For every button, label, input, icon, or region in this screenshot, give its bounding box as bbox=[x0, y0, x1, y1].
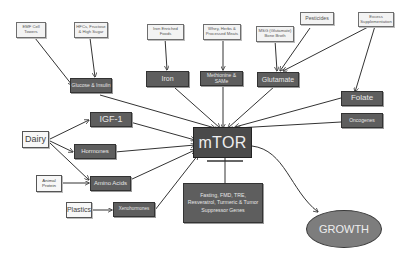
node-label: Methionine & SAMe bbox=[201, 73, 242, 84]
igf-1-node: IGF-1 bbox=[90, 112, 132, 127]
iron-enriched-foods-node: Iron Enriched Foods bbox=[147, 24, 184, 40]
node-label: IGF-1 bbox=[99, 115, 122, 125]
xenohormones-node: Xenohormones bbox=[113, 202, 155, 217]
oncogenes-node: Oncogenes bbox=[341, 113, 383, 128]
inhibitors-node: Fasting, FMD, TRE, Resveratrol, Turmeric… bbox=[183, 183, 263, 223]
node-label: MSG (Glutamate) Bone Broth bbox=[257, 29, 293, 38]
node-label: GROWTH bbox=[319, 223, 369, 235]
growth-node: GROWTH bbox=[306, 210, 382, 248]
msg-bone-broth-node: MSG (Glutamate) Bone Broth bbox=[256, 26, 294, 42]
node-label: Pesticides bbox=[305, 16, 329, 22]
mtor-node: mTOR bbox=[193, 127, 252, 158]
glutamate-node: Glutamate bbox=[257, 72, 299, 87]
processed-meats-node: Whey, Herbs & Processed Meats bbox=[203, 24, 241, 40]
mtor-pathway-diagram: EMF Cell Towers HFCs, Fructose & High Su… bbox=[0, 0, 413, 262]
hfcs-sugar-node: HFCs, Fructose & High Sugar bbox=[74, 22, 108, 38]
node-label: Animal Protein bbox=[37, 179, 61, 189]
dairy-node: Dairy bbox=[22, 131, 49, 148]
node-label: Plastics bbox=[67, 206, 91, 214]
pesticides-node: Pesticides bbox=[300, 12, 334, 25]
animal-protein-node: Animal Protein bbox=[36, 175, 62, 192]
node-label: HFCs, Fructose & High Sugar bbox=[75, 25, 107, 34]
node-label: Excess Supplementation bbox=[359, 15, 393, 24]
excess-supplementation-node: Excess Supplementation bbox=[358, 12, 394, 27]
hormones-node: Hormones bbox=[74, 144, 116, 159]
node-label: Iron bbox=[161, 75, 173, 83]
iron-node: Iron bbox=[146, 71, 189, 87]
node-label: EMF Cell Towers bbox=[17, 25, 45, 34]
node-label: Glutamate bbox=[262, 76, 294, 84]
glucose-insulin-node: Glucose & Insulin bbox=[70, 78, 112, 93]
node-label: Amino Acids bbox=[94, 180, 127, 187]
methionine-same-node: Methionine & SAMe bbox=[200, 71, 243, 86]
node-label: Hormones bbox=[81, 148, 109, 155]
node-label: Fasting, FMD, TRE, Resveratrol, Turmeric… bbox=[186, 192, 260, 215]
node-label: Xenohormones bbox=[119, 207, 150, 212]
folate-node: Folate bbox=[341, 91, 383, 106]
node-label: mTOR bbox=[198, 134, 246, 152]
node-label: Oncogenes bbox=[349, 118, 375, 124]
node-label: Folate bbox=[351, 94, 373, 103]
node-label: Glucose & Insulin bbox=[72, 83, 111, 89]
node-label: Iron Enriched Foods bbox=[148, 27, 183, 36]
node-label: Dairy bbox=[25, 135, 46, 145]
emf-cell-towers-node: EMF Cell Towers bbox=[16, 22, 46, 38]
amino-acids-node: Amino Acids bbox=[90, 176, 131, 191]
node-label: Whey, Herbs & Processed Meats bbox=[204, 27, 240, 36]
plastics-node: Plastics bbox=[66, 202, 92, 218]
